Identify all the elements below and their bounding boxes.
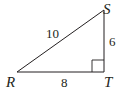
vertex-label-r: R (5, 74, 15, 90)
triangle-diagram: R S T 10 6 8 (0, 0, 125, 93)
right-angle-marker (92, 60, 104, 72)
triangle-rst (17, 10, 104, 72)
side-label-rt: 8 (61, 75, 68, 90)
vertex-label-s: S (103, 1, 111, 17)
vertex-label-t: T (104, 74, 114, 90)
side-label-st: 6 (109, 34, 116, 49)
side-label-rs: 10 (46, 26, 59, 41)
